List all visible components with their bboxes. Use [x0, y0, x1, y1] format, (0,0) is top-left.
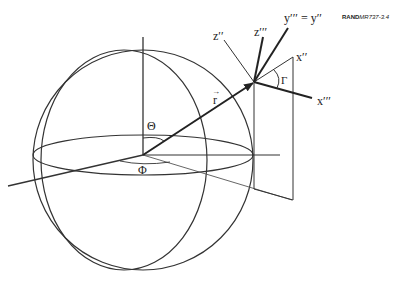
- plane-bottom-edge: [254, 189, 293, 200]
- x-triple-prime-label: x′′′: [317, 94, 331, 108]
- gamma-arc: [274, 70, 279, 88]
- figure-tag: RANDMR737-3.4: [342, 14, 390, 20]
- r-vector-arrow: →: [212, 87, 220, 96]
- x-double-prime-label: x′′: [296, 50, 308, 64]
- x-axis: [8, 155, 143, 186]
- phi-label: Φ: [138, 163, 147, 177]
- spherical-coordinates-diagram: Θ Φ r → Γ z′′ z′′′ y′′′ = y′′ x′′ x′′′ R…: [0, 0, 404, 288]
- theta-label: Θ: [147, 119, 156, 133]
- gamma-label: Γ: [281, 74, 287, 86]
- z-triple-prime-label: z′′′: [254, 25, 268, 39]
- y-equation-label: y′′′ = y′′: [284, 11, 322, 25]
- z-double-prime-label: z′′: [213, 29, 224, 43]
- theta-arc: [143, 137, 164, 141]
- z-double-prime-axis: [224, 40, 254, 82]
